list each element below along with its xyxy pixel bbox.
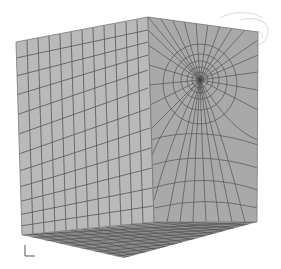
mesh-viewport xyxy=(0,0,281,269)
refinement-point xyxy=(198,78,203,83)
left-face xyxy=(16,17,154,235)
mesh-figure xyxy=(0,0,281,269)
axis-triad-icon xyxy=(25,245,35,256)
right-face xyxy=(148,17,258,222)
